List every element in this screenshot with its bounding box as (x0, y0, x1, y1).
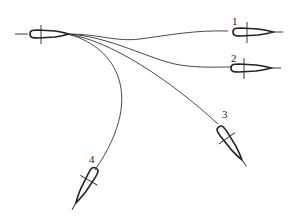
trajectories (67, 31, 232, 170)
target-body-4 (63, 163, 104, 215)
trajectory-1 (67, 31, 228, 40)
target-label-3: 3 (222, 108, 228, 120)
target-body-1 (233, 22, 283, 43)
target-body-2 (231, 58, 281, 79)
target-label-1: 1 (232, 15, 238, 27)
trajectory-4 (67, 34, 122, 170)
trajectory-2 (67, 34, 232, 67)
trajectory-3 (67, 34, 218, 124)
source-body (15, 25, 68, 44)
trajectory-diagram: 1 2 3 4 (0, 0, 298, 220)
target-body-3 (211, 121, 255, 172)
target-label-2: 2 (231, 52, 237, 64)
target-label-4: 4 (89, 153, 95, 165)
